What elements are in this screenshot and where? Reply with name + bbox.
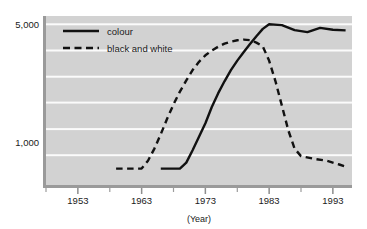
- x-axis-tick-label: 1993: [322, 195, 343, 206]
- x-axis-major-tick: [205, 188, 207, 194]
- x-axis-major-tick: [332, 188, 334, 194]
- x-axis-title: (Year): [187, 214, 211, 224]
- x-axis-major-tick: [268, 188, 270, 194]
- y-axis-tick-label: 1,000: [15, 137, 39, 148]
- x-axis-major-tick: [77, 188, 79, 194]
- x-axis-minor-tick: [45, 188, 46, 192]
- plot-background: [46, 16, 352, 186]
- x-axis-minor-tick: [173, 188, 174, 192]
- gridline: [46, 128, 352, 130]
- x-axis-tick-labels: 19531963197319831993: [67, 195, 343, 206]
- legend-label: black and white: [107, 43, 172, 54]
- legend-label: colour: [107, 26, 133, 37]
- x-axis-tick-label: 1983: [259, 195, 280, 206]
- gridline: [46, 76, 352, 78]
- gridline: [46, 154, 352, 156]
- line-chart: 19531963197319831993 5,0001,000 colourbl…: [0, 0, 367, 229]
- gridline: [46, 50, 352, 52]
- x-axis-minor-tick: [300, 188, 301, 192]
- gridline: [46, 102, 352, 104]
- gridline: [46, 23, 352, 25]
- x-axis-ticks: [45, 188, 333, 194]
- x-axis-tick-label: 1963: [131, 195, 152, 206]
- chart-container: 19531963197319831993 5,0001,000 colourbl…: [0, 0, 367, 229]
- y-axis-tick-label: 5,000: [15, 19, 39, 30]
- x-axis-spine: [43, 185, 352, 188]
- x-axis-major-tick: [141, 188, 143, 194]
- x-axis-minor-tick: [109, 188, 110, 192]
- x-axis-tick-label: 1953: [67, 195, 88, 206]
- x-axis-tick-label: 1973: [195, 195, 216, 206]
- y-axis-tick-labels: 5,0001,000: [15, 19, 39, 148]
- y-axis-spine: [43, 16, 46, 188]
- x-axis-minor-tick: [237, 188, 238, 192]
